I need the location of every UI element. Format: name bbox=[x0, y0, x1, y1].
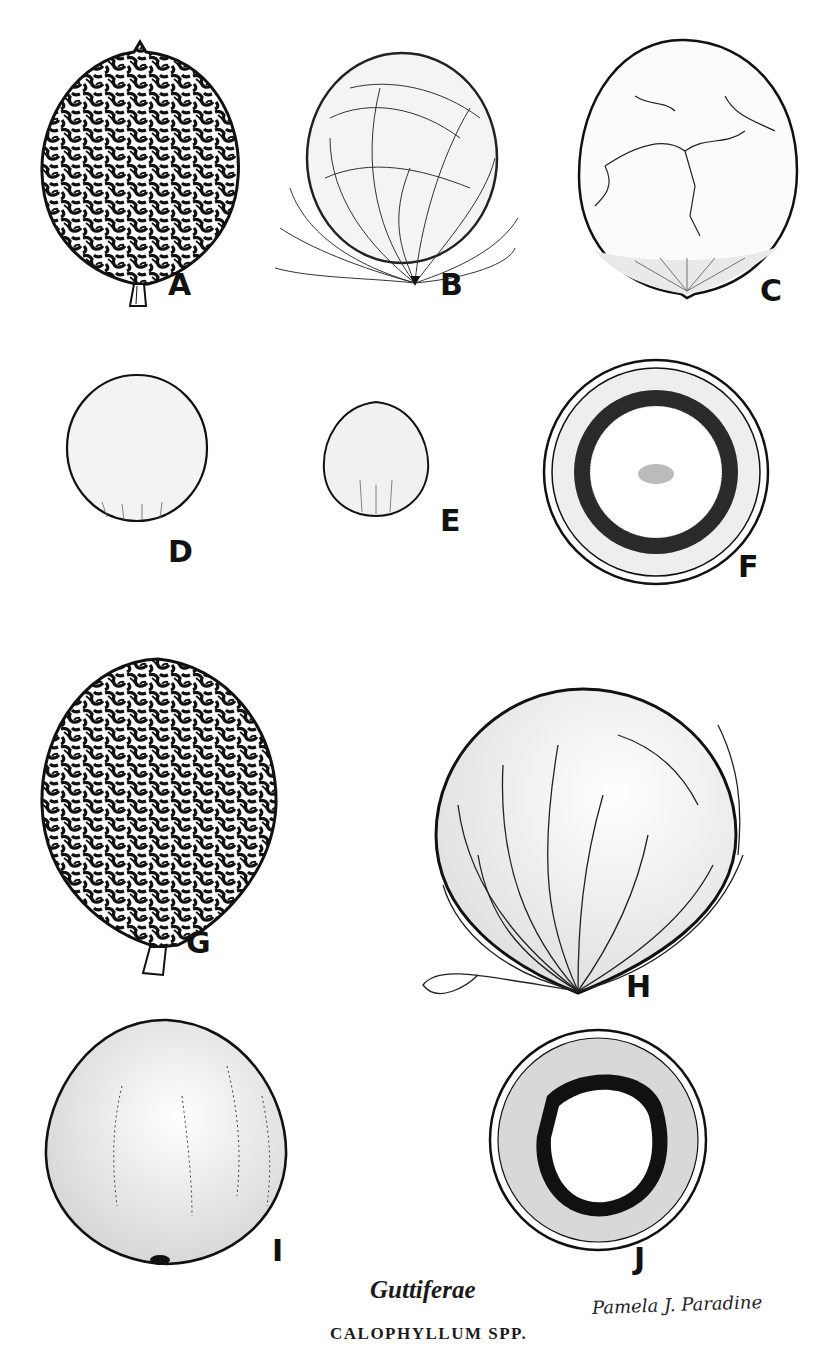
figure-label-g: G bbox=[186, 928, 211, 958]
figure-label-f: F bbox=[738, 552, 759, 582]
figure-label-c: C bbox=[760, 276, 782, 306]
figure-h-fibrous-fruit bbox=[418, 685, 748, 1005]
fibrous-fruit-drawing bbox=[270, 48, 520, 288]
smooth-seed-drawing bbox=[42, 1016, 292, 1268]
figure-label-e: E bbox=[440, 506, 461, 536]
small-seed-drawing bbox=[320, 400, 432, 518]
figure-c-cracked-fruit bbox=[575, 36, 800, 301]
fibrous-fruit-drawing bbox=[418, 685, 748, 1005]
figure-e-small-seed bbox=[320, 400, 432, 518]
cross-section-drawing bbox=[487, 1026, 709, 1254]
figure-i-smooth-seed bbox=[42, 1016, 292, 1268]
reticulate-fruit-drawing bbox=[38, 38, 243, 308]
figure-label-d: D bbox=[168, 537, 193, 567]
figure-b-fibrous-fruit bbox=[270, 48, 520, 288]
figure-j-cross-section bbox=[487, 1026, 709, 1254]
figure-d-smooth-seed bbox=[62, 372, 212, 527]
figure-a-reticulate-fruit bbox=[38, 38, 243, 308]
cracked-fruit-drawing bbox=[575, 36, 800, 301]
artist-signature: Pamela J. Paradine bbox=[592, 1291, 763, 1318]
figure-label-i: I bbox=[272, 1236, 283, 1266]
figure-label-j: J bbox=[634, 1244, 645, 1274]
smooth-seed-drawing bbox=[62, 372, 212, 527]
figure-label-b: B bbox=[440, 270, 463, 300]
figure-label-a: A bbox=[168, 270, 191, 300]
figure-label-h: H bbox=[626, 972, 651, 1002]
plate-family-caption: Guttiferae bbox=[370, 1276, 476, 1304]
reticulate-fruit-drawing bbox=[38, 655, 283, 980]
figure-g-reticulate-fruit bbox=[38, 655, 283, 980]
plate-genus-caption: CALOPHYLLUM SPP. bbox=[330, 1324, 527, 1344]
